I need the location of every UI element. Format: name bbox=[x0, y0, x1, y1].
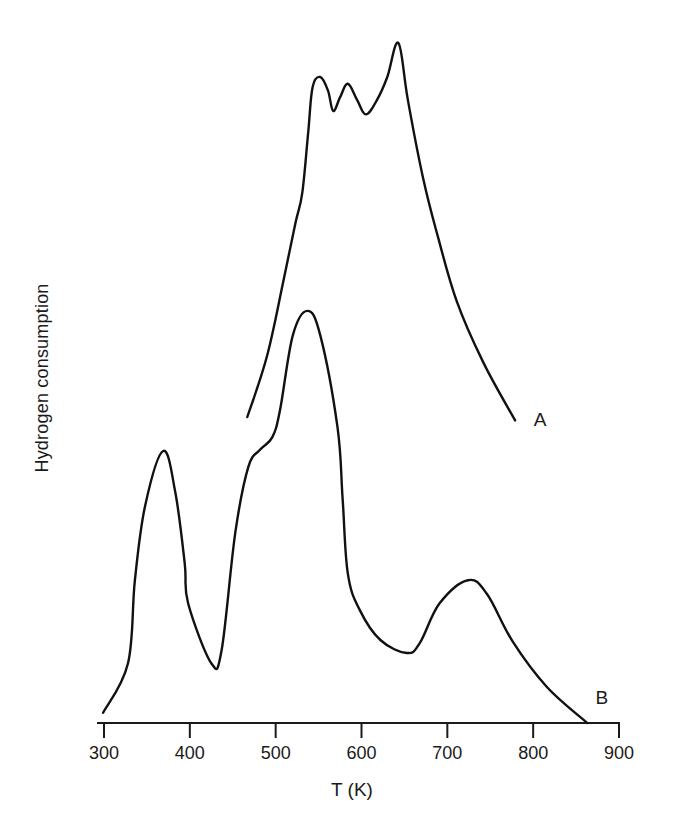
x-axis-ticks bbox=[104, 723, 619, 738]
x-tick-label: 600 bbox=[346, 743, 376, 764]
x-tick-label: 500 bbox=[261, 743, 291, 764]
x-tick-label: 900 bbox=[604, 743, 634, 764]
x-axis-label: T (K) bbox=[331, 779, 373, 801]
plot-canvas bbox=[0, 0, 675, 836]
series-b-label: B bbox=[595, 687, 608, 709]
x-tick-label: 300 bbox=[89, 743, 119, 764]
y-axis-label: Hydrogen consumption bbox=[32, 283, 53, 472]
chart-area: Hydrogen consumption T (K) 300 400 500 6… bbox=[0, 0, 675, 836]
series-b-curve bbox=[103, 311, 587, 723]
series-a-label: A bbox=[534, 409, 547, 431]
x-tick-label: 400 bbox=[175, 743, 205, 764]
x-tick-label: 700 bbox=[432, 743, 462, 764]
x-tick-label: 800 bbox=[518, 743, 548, 764]
